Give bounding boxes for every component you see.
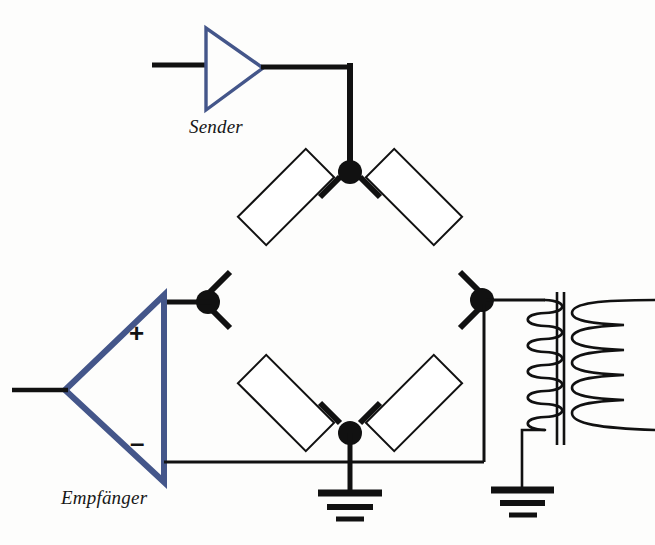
- schematic-canvas: Sender Empfänger + –: [0, 0, 655, 545]
- resistor-top-right-body: [366, 149, 462, 245]
- receiver-minus-terminal-label: –: [130, 430, 144, 456]
- sender-amplifier-group: [152, 28, 351, 110]
- sender-triangle-icon: [206, 28, 263, 110]
- transformer-secondary-winding: [572, 300, 655, 430]
- resistor-bottom-left: [210, 308, 340, 451]
- resistor-top-right-lead-b: [460, 272, 480, 292]
- receiver-triangle-icon: [65, 295, 164, 482]
- resistor-top-right: [360, 149, 480, 292]
- resistor-bottom-right-body: [366, 355, 462, 451]
- receiver-plus-terminal-label: +: [129, 320, 144, 346]
- ground-right: [491, 490, 554, 515]
- resistor-bottom-right-lead-a: [460, 308, 480, 328]
- resistor-bottom-right: [360, 308, 480, 451]
- resistor-top-left-body: [238, 149, 334, 245]
- wheatstone-bridge-group: [196, 149, 494, 451]
- resistor-bottom-left-body: [238, 355, 334, 451]
- circuit-schematic-svg: [0, 0, 655, 545]
- transformer-group: [486, 292, 655, 489]
- ground-center: [318, 493, 382, 519]
- receiver-label: Empfänger: [61, 487, 147, 509]
- sender-label: Sender: [189, 116, 243, 138]
- junction-top-dot: [338, 160, 362, 184]
- resistor-top-left: [210, 149, 340, 292]
- resistor-top-left-lead-b: [210, 272, 230, 292]
- transformer-primary-bottom-lead: [522, 430, 545, 489]
